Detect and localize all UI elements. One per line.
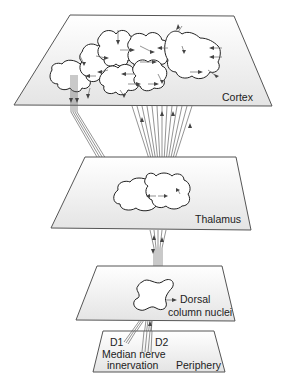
cortex-label: Cortex <box>222 91 254 103</box>
d1-label: D1 <box>110 336 124 348</box>
d2-label: D2 <box>155 336 169 348</box>
thalamus-layer: Thalamus <box>51 157 251 230</box>
cortex-region-e <box>133 60 167 91</box>
periphery-label: Periphery <box>176 359 222 371</box>
cortex-layer: Cortex <box>14 15 272 106</box>
dorsal-label-line1: Dorsal <box>180 293 210 305</box>
periphery-layer: D1 D2 Median nerve innervation Periphery <box>93 331 225 372</box>
dorsal-column-layer: Dorsal column nuclei <box>76 266 235 321</box>
pathway-diagram: Cortex <box>0 0 281 385</box>
median-nerve-label-line2: innervation <box>107 359 159 371</box>
thalamus-label: Thalamus <box>195 213 241 225</box>
dorsal-label-line2: column nuclei <box>168 306 232 318</box>
